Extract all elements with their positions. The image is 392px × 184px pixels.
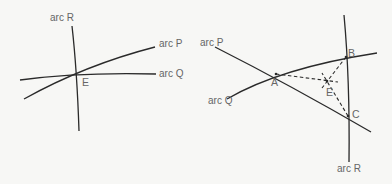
- left-arc-r: [72, 26, 79, 131]
- right-arc-r-label: arc R: [337, 163, 361, 174]
- point-b-marker: [345, 56, 348, 59]
- point-a-marker: [275, 73, 278, 76]
- right-arc-q: [227, 53, 377, 99]
- left-arc-q-label: arc Q: [159, 68, 184, 79]
- right-point-e-label: E: [326, 86, 333, 98]
- dashed-line-b-e: [322, 57, 346, 88]
- left-point-e-label: E: [82, 76, 89, 88]
- figure-right: arc P arc Q arc R A B C E: [200, 15, 377, 174]
- point-c-marker: [347, 115, 350, 118]
- right-point-c-label: C: [352, 108, 360, 120]
- right-arc-r: [344, 15, 349, 162]
- right-point-a-label: A: [271, 76, 278, 88]
- dashed-line-a-e: [276, 74, 338, 82]
- left-arc-r-label: arc R: [50, 12, 74, 23]
- right-arc-q-label: arc Q: [208, 95, 233, 106]
- figure-left: arc R arc P arc Q E: [20, 12, 184, 131]
- left-arc-p-label: arc P: [159, 38, 183, 49]
- right-point-b-label: B: [348, 47, 355, 59]
- point-e-marker: [326, 80, 329, 83]
- diagram-canvas: arc R arc P arc Q E arc P arc Q arc R A …: [0, 0, 392, 184]
- right-arc-p-label: arc P: [200, 37, 224, 48]
